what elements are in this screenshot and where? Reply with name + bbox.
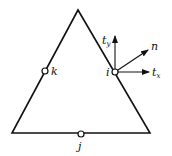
triangle-element-diagram: k i j ty n tx [0,0,172,156]
ty-label: ty [102,34,111,48]
node-i-label: i [106,66,110,79]
node-j [78,131,84,137]
tx-label: tx [152,66,160,80]
node-i [112,69,118,75]
n-label: n [151,40,158,53]
n-vector-arrow [115,50,148,72]
node-j-label: j [75,140,82,153]
node-k-label: k [51,65,58,78]
node-k [42,68,48,74]
